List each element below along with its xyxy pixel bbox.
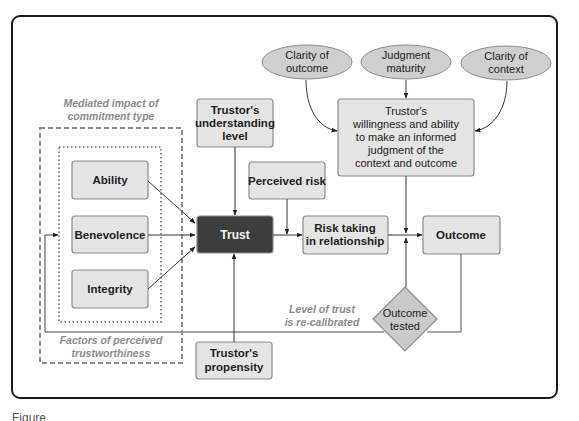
mediated-note: Mediated impact of [63,97,160,109]
judgment-box-line: judgment of the [367,144,444,156]
trust-model-diagram: Clarity of outcome Judgment maturity Cla… [0,0,579,421]
judgment-box: Trustor's willingness and ability to mak… [338,99,474,176]
factor-label: Benevolence [75,229,146,241]
factor-benevolence: Benevolence [72,216,148,253]
understanding-level-box: Trustor's understanding level [195,99,275,147]
ellipse-label: Clarity of [484,50,528,62]
factor-label: Integrity [87,283,133,295]
understanding-line: Trustor's [211,104,260,116]
ellipse-clarity-of-outcome: Clarity of outcome [262,45,352,79]
ellipse-label: Judgment [382,49,430,61]
trust-box: Trust [197,216,273,253]
outcome-box: Outcome [423,216,500,254]
judgment-box-line: Trustor's [385,105,428,117]
ellipse-label: maturity [386,62,426,74]
risk-taking-line: Risk taking [314,222,375,234]
ellipse-label: context [488,63,523,75]
ellipse-label: outcome [286,62,328,74]
mediated-note: commitment type [68,110,155,122]
factor-ability: Ability [72,161,148,199]
risk-taking-box: Risk taking in relationship [303,216,388,254]
factors-note: trustworthiness [72,347,151,359]
ellipse-clarity-of-context: Clarity of context [461,46,551,80]
perceived-risk-label: Perceived risk [248,175,327,187]
outcome-label: Outcome [436,229,486,241]
ellipse-label: Clarity of [285,49,329,61]
propensity-box: Trustor's propensity [196,342,272,379]
risk-taking-line: in relationship [306,235,385,247]
figure-caption: Figure [12,408,46,421]
judgment-box-line: to make an informed [356,131,456,143]
recalibrated-note: Level of trust [289,303,355,315]
propensity-line: propensity [205,361,264,373]
factor-label: Ability [92,174,128,186]
understanding-line: understanding [195,117,275,129]
trust-label: Trust [220,228,249,242]
factors-note: Factors of perceived [60,334,163,346]
factor-integrity: Integrity [72,270,148,308]
recalibrated-note: is re-calibrated [285,316,360,328]
outcome-tested-line: tested [390,320,420,332]
ellipse-judgment-maturity: Judgment maturity [361,45,451,79]
propensity-line: Trustor's [210,347,259,359]
outcome-tested-line: Outcome [383,307,428,319]
judgment-box-line: context and outcome [355,157,457,169]
judgment-box-line: willingness and ability [352,118,459,130]
understanding-line: level [222,130,248,142]
perceived-risk-box: Perceived risk [248,162,327,199]
